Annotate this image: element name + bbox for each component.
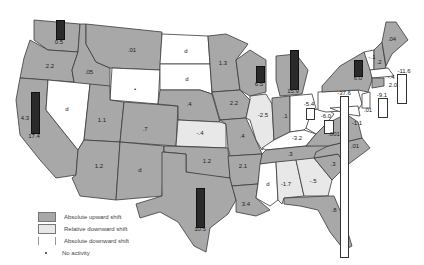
label-ma: -11.6 xyxy=(397,68,410,74)
label-mt: .01 xyxy=(128,47,136,53)
label-ar: 2.1 xyxy=(239,163,247,169)
obar-oh xyxy=(306,108,315,120)
label-ca-left: 4.3 xyxy=(21,115,29,121)
label-ia: 2.2 xyxy=(230,100,238,106)
label-id: .05 xyxy=(85,69,93,75)
legend: Absolute upward shift Relative downward … xyxy=(38,211,129,259)
label-va: .001 xyxy=(328,131,340,137)
label-tn: .3 xyxy=(287,151,292,157)
state-me xyxy=(382,22,408,66)
state-ct xyxy=(372,78,384,88)
label-tx: 10.5 xyxy=(194,226,206,232)
legend-item-relative-downward: Relative downward shift xyxy=(38,223,129,235)
label-pa: -37.6 xyxy=(337,90,351,96)
label-de: .01 xyxy=(364,107,372,113)
bar-ca xyxy=(31,92,40,134)
bar-wa xyxy=(56,20,65,40)
legend-item-absolute-downward: Absolute downward shift xyxy=(38,235,129,247)
label-fl: .8 xyxy=(331,207,336,213)
label-mo: .4 xyxy=(239,133,244,139)
swatch-upward-icon xyxy=(38,212,56,222)
label-mi: 15.9 xyxy=(287,88,299,94)
label-in: .1 xyxy=(282,113,287,119)
obar-pa xyxy=(340,96,349,258)
label-wv: -6.0 xyxy=(321,113,331,119)
label-al: -1.7 xyxy=(281,181,291,187)
label-nc: .01 xyxy=(351,143,359,149)
state-ar xyxy=(228,154,262,186)
bar-tx xyxy=(196,188,205,228)
label-wy: • xyxy=(134,86,136,92)
label-oh: -5.4 xyxy=(304,101,314,107)
state-ny xyxy=(322,52,372,92)
label-nh: .2 xyxy=(376,59,381,65)
swatch-absolute-down-icon xyxy=(38,237,56,245)
label-nd: d xyxy=(184,48,187,54)
obar-ma xyxy=(397,74,407,104)
dot-icon xyxy=(38,249,54,257)
label-ms: d xyxy=(266,181,269,187)
label-ga: -.5 xyxy=(309,178,316,184)
label-wa: 0.5 xyxy=(55,39,63,45)
label-nv: d xyxy=(65,106,68,112)
label-md: -1.1 xyxy=(352,120,362,126)
label-sd: d xyxy=(185,76,188,82)
label-ct: 2.0 xyxy=(389,82,397,88)
label-ri: -.4 xyxy=(387,74,394,80)
label-me: .04 xyxy=(388,36,396,42)
label-ny: 6.0 xyxy=(354,75,362,81)
label-co: .7 xyxy=(142,126,147,132)
label-vt: -.1 xyxy=(368,54,375,60)
bar-mi xyxy=(290,50,299,90)
label-la: 3.4 xyxy=(242,201,250,207)
label-wi: 6.5 xyxy=(255,81,263,87)
label-sc: .3 xyxy=(330,161,335,167)
state-az xyxy=(72,140,120,200)
label-ut: 1.1 xyxy=(98,117,106,123)
legend-item-no-activity: No activity xyxy=(38,247,129,259)
state-co xyxy=(120,102,178,146)
obar-nj xyxy=(378,98,388,118)
label-az: 1.2 xyxy=(95,163,103,169)
label-nm: d xyxy=(138,167,141,173)
label-ne: .4 xyxy=(186,101,191,107)
label-il: -2.5 xyxy=(258,112,268,118)
label-ks: -.4 xyxy=(196,130,203,136)
label-ky: -3.2 xyxy=(292,135,302,141)
label-ca: 17.4 xyxy=(28,133,40,139)
swatch-relative-icon xyxy=(38,224,56,234)
label-ok: 1.2 xyxy=(203,158,211,164)
legend-item-absolute-upward: Absolute upward shift xyxy=(38,211,129,223)
state-nj xyxy=(362,92,370,108)
label-nj: -9.1 xyxy=(377,92,387,98)
label-mn: 1.3 xyxy=(219,60,227,66)
label-or: 2.2 xyxy=(46,63,54,69)
